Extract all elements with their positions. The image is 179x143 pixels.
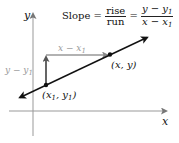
run-label-text: x − x — [58, 43, 81, 53]
formula-lhs: Slope — [62, 10, 90, 21]
slope-diagram: y x Slope = rise run = y − y1 x − x1 x −… — [0, 0, 179, 143]
run-label: x − x1 — [58, 44, 86, 55]
y-diff-text: y − y — [142, 3, 168, 14]
difference-fraction: y − y1 x − x1 — [141, 4, 174, 29]
x-diff-text: x − x — [142, 16, 168, 27]
formula-equals-2: = — [129, 10, 137, 21]
fraction-x-diff: x − x1 — [141, 17, 174, 29]
point-x-y — [108, 52, 112, 56]
y-diff-sub: 1 — [168, 8, 172, 16]
p1-close: ) — [73, 89, 77, 100]
rise-over-run-fraction: rise run — [105, 6, 126, 27]
rise-label-sub: 1 — [28, 69, 32, 77]
point-x-y-label: (x, y) — [111, 60, 136, 70]
formula-equals-1: = — [94, 10, 102, 21]
x-axis-label: x — [162, 116, 168, 127]
point-x1-y1 — [44, 83, 48, 87]
x-diff-sub: 1 — [168, 21, 172, 29]
rise-label-text: y − y — [5, 65, 28, 75]
fraction-run: run — [105, 17, 126, 27]
run-label-sub: 1 — [81, 47, 85, 55]
y-axis-label: y — [24, 10, 30, 21]
rise-label: y − y1 — [5, 66, 33, 77]
p1-y: , y — [56, 89, 68, 100]
slope-formula: Slope = rise run = y − y1 x − x1 — [62, 4, 173, 29]
point-x1-y1-label: (x1, y1) — [42, 90, 76, 102]
p1-x: (x — [42, 89, 52, 100]
